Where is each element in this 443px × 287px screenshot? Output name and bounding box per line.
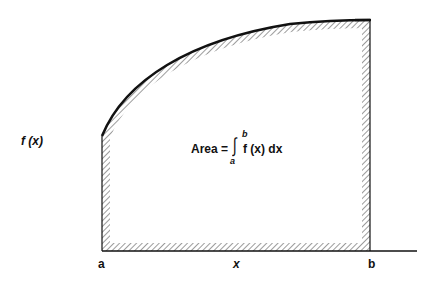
x-axis-label: x <box>233 258 240 270</box>
lower-limit-label: a <box>98 258 105 270</box>
integral-upper-limit: b <box>242 130 248 139</box>
integral-symbol: ∫ <box>233 135 237 155</box>
upper-limit-label: b <box>368 258 375 270</box>
formula-prefix: Area = <box>191 143 228 155</box>
area-formula: Area = ∫ b a f (x) dx <box>191 130 311 170</box>
integrand: f (x) dx <box>243 143 282 155</box>
y-axis-label: f (x) <box>21 135 43 147</box>
integral-lower-limit: a <box>230 157 235 166</box>
